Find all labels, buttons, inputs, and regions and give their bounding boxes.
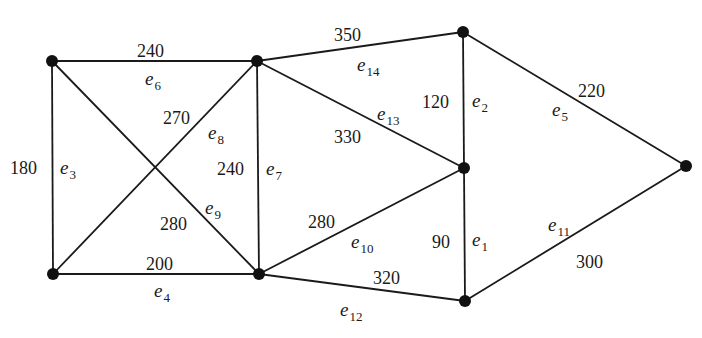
edge-name-label: e14 (357, 54, 380, 79)
edge-e12 (259, 274, 465, 301)
edge-name-label: e12 (340, 299, 362, 324)
edge-e1 (464, 168, 465, 301)
edge-e11 (465, 166, 686, 301)
edge-weight-label: 200 (146, 254, 173, 274)
edge-weight-label: 240 (217, 159, 244, 179)
edge-name-label: e5 (552, 99, 568, 124)
edge-name-label: e11 (548, 214, 570, 239)
edge-name-label: e2 (472, 90, 488, 115)
graph-node-H (459, 295, 471, 307)
edge-weight-label: 90 (432, 232, 450, 252)
edge-weight-label: 120 (422, 92, 449, 112)
edge-weight-label: 280 (160, 214, 187, 234)
weighted-graph-diagram: 90e1120e2180e3200e4220e5240e6240e7270e82… (0, 0, 702, 338)
edge-name-label: e7 (266, 158, 282, 183)
graph-node-A (46, 55, 58, 67)
edge-e2 (463, 32, 464, 168)
edge-name-label: e6 (145, 68, 161, 93)
edge-e13 (257, 61, 464, 168)
edge-weight-label: 240 (137, 41, 164, 61)
edge-weight-label: 280 (308, 212, 335, 232)
edge-e3 (52, 61, 53, 274)
edge-name-label: e10 (351, 231, 373, 256)
graph-node-E (680, 160, 692, 172)
edge-name-label: e1 (472, 229, 488, 254)
edge-e10 (259, 168, 464, 274)
graph-node-D (458, 162, 470, 174)
graph-node-G (253, 268, 265, 280)
labels-layer: 90e1120e2180e3200e4220e5240e6240e7270e82… (10, 25, 605, 324)
graph-node-B (251, 55, 263, 67)
edge-name-label: e3 (60, 157, 76, 182)
edge-weight-label: 220 (578, 81, 605, 101)
edge-weight-label: 300 (576, 252, 603, 272)
graph-node-F (47, 268, 59, 280)
edge-weight-label: 330 (334, 127, 361, 147)
edge-weight-label: 320 (373, 268, 400, 288)
edge-e5 (463, 32, 686, 166)
edge-weight-label: 180 (10, 158, 37, 178)
edge-name-label: e9 (205, 197, 221, 222)
edge-name-label: e8 (208, 122, 224, 147)
graph-node-C (457, 26, 469, 38)
edge-weight-label: 350 (334, 25, 361, 45)
edge-e7 (257, 61, 259, 274)
edge-name-label: e4 (154, 280, 170, 305)
edge-weight-label: 270 (163, 108, 190, 128)
